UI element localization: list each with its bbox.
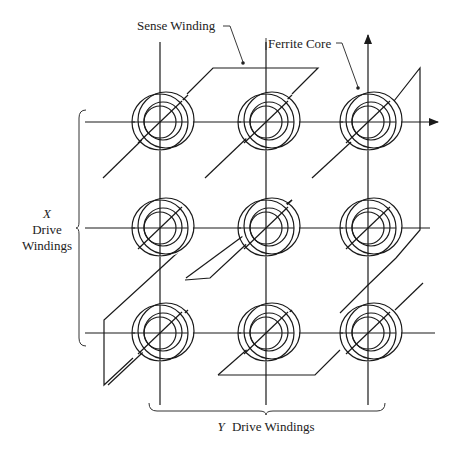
- core-memory-diagram: Sense Winding Ferrite Core X Drive Windi…: [0, 0, 457, 449]
- sense-winding-leader-dot: [241, 61, 245, 65]
- y-drive-label-text: Drive Windings: [232, 419, 315, 434]
- ferrite-core: [340, 92, 402, 151]
- ferrite-core-leader-dot: [356, 86, 360, 90]
- ferrite-core: [238, 92, 300, 151]
- ferrite-core-leader: [336, 43, 358, 87]
- sense-winding-label: Sense Winding: [137, 18, 216, 33]
- ferrite-core: [238, 198, 300, 257]
- ferrite-core: [132, 92, 194, 151]
- ferrite-core: [340, 198, 402, 257]
- x-drive-label-line1: Drive: [32, 222, 62, 237]
- x-drive-label-var: X: [42, 206, 52, 221]
- sense-winding-leader: [223, 26, 243, 62]
- ferrite-core: [132, 198, 194, 257]
- y-drive-brace: [149, 403, 385, 415]
- y-drive-label-var: Y: [217, 419, 226, 434]
- ferrite-core-label: Ferrite Core: [268, 36, 331, 51]
- sense-winding-top: [187, 68, 318, 94]
- ferrite-core: [132, 303, 194, 362]
- ferrite-core: [340, 303, 402, 362]
- ferrite-cores: [132, 92, 402, 362]
- x-drive-brace: [76, 110, 86, 346]
- diagonal-wire: [395, 283, 423, 310]
- y-drive-label: Y Drive Windings: [217, 419, 314, 434]
- x-drive-label-line2: Windings: [22, 238, 72, 253]
